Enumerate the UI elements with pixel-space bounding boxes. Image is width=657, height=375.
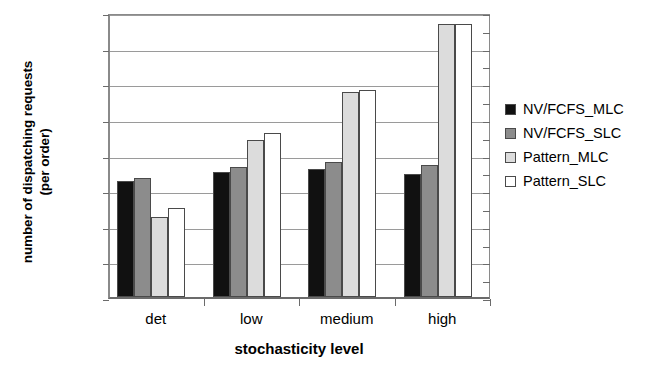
x-axis-tick-label: det [108,310,204,328]
y-axis-tick [103,300,109,301]
x-axis-tick-label: medium [299,310,395,328]
y-axis-minor-tick [483,211,490,212]
bar-chart: number of dispatching requests (per orde… [0,0,657,375]
bar [342,92,359,297]
bar-group [213,15,281,297]
y-axis-tick [103,229,109,230]
legend-item: NV/FCFS_MLC [505,102,624,117]
legend-swatch-icon [505,104,516,115]
bar [230,167,247,297]
y-axis-title: number of dispatching requests (per orde… [16,22,56,302]
y-axis-minor-tick [483,229,490,230]
legend-label: NV/FCFS_MLC [523,102,624,117]
y-axis-minor-tick [483,264,490,265]
y-axis-minor-tick [483,122,490,123]
x-axis-tick [395,299,396,306]
legend-item: NV/FCFS_SLC [505,126,624,141]
y-axis-minor-tick [483,15,490,16]
y-axis-minor-tick [483,68,490,69]
legend-item: Pattern_SLC [505,174,624,189]
y-axis-minor-tick [483,51,490,52]
bar [455,24,472,297]
bar [438,24,455,297]
bar-group [308,15,376,297]
bar [168,208,185,297]
y-axis-minor-tick [483,193,490,194]
y-axis-tick [103,193,109,194]
plot-area: 11,21,41,61,822,22,42,6 [108,14,490,299]
bar [264,133,281,297]
y-axis-minor-tick [483,175,490,176]
bar [404,174,421,297]
x-axis-title: stochasticity level [108,340,490,357]
y-axis-minor-tick [483,33,490,34]
bar [134,178,151,297]
legend-swatch-icon [505,152,516,163]
legend-label: NV/FCFS_SLC [523,126,621,141]
bar-group [404,15,472,297]
legend-label: Pattern_MLC [523,150,608,165]
y-axis-tick [103,51,109,52]
bar-group [117,15,185,297]
bar [151,217,168,297]
y-axis-minor-tick [483,86,490,87]
y-axis-minor-tick [483,104,490,105]
bar [247,140,264,297]
y-axis-tick [103,158,109,159]
legend-item: Pattern_MLC [505,150,624,165]
legend-swatch-icon [505,176,516,187]
y-axis-tick [103,264,109,265]
y-axis-tick [103,122,109,123]
bar [308,169,325,297]
y-axis-tick [103,15,109,16]
legend-swatch-icon [505,128,516,139]
bar [213,172,230,297]
x-axis-tick [299,299,300,306]
bar [325,162,342,297]
y-axis-title-line2: (per order) [36,128,53,195]
y-axis-minor-tick [483,300,490,301]
y-axis-title-line1: number of dispatching requests [19,61,36,264]
legend-label: Pattern_SLC [523,174,606,189]
bar [117,181,134,297]
x-axis-tick-label: low [204,310,300,328]
y-axis-minor-tick [483,140,490,141]
x-axis-tick [204,299,205,306]
bar [359,90,376,297]
y-axis-minor-tick [483,158,490,159]
x-axis-tick-label: high [395,310,491,328]
chart-legend: NV/FCFS_MLCNV/FCFS_SLCPattern_MLCPattern… [505,102,624,189]
y-axis-minor-tick [483,282,490,283]
bar [421,165,438,297]
x-axis-tick [490,299,491,306]
y-axis-tick [103,86,109,87]
y-axis-minor-tick [483,247,490,248]
